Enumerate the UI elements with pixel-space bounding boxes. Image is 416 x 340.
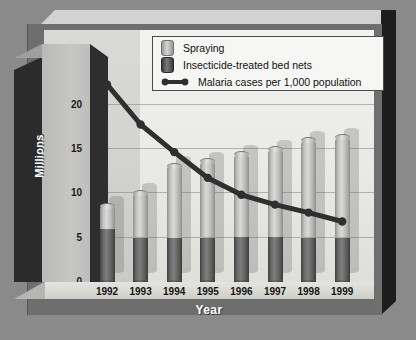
bar-segment-spraying bbox=[200, 161, 215, 238]
bar-segment-bed-nets bbox=[133, 238, 148, 283]
y-tick-label-20: 20 bbox=[52, 99, 82, 110]
y-tick-label-15: 15 bbox=[52, 143, 82, 154]
bar-segment-spraying bbox=[335, 137, 350, 238]
bar-segment-bed-nets bbox=[301, 238, 316, 283]
chart-legend: Spraying Insecticide-treated bed nets Ma… bbox=[152, 36, 384, 91]
cylinder-light-swatch-icon bbox=[161, 40, 174, 56]
bar-segment-bed-nets bbox=[100, 229, 115, 282]
bar-segment-spraying bbox=[234, 154, 249, 237]
bar-segment-spraying bbox=[167, 165, 182, 238]
bar-segment-spraying bbox=[133, 192, 148, 237]
legend-item-spraying: Spraying bbox=[161, 40, 224, 55]
bar-segment-spraying bbox=[301, 140, 316, 238]
cylinder-dark-swatch-icon bbox=[161, 57, 174, 73]
bar-segment-bed-nets bbox=[268, 237, 283, 282]
x-tick-label-1999: 1999 bbox=[322, 286, 362, 297]
bar-segment-bed-nets bbox=[335, 238, 350, 283]
bar-top-cap bbox=[100, 203, 115, 209]
line-marker-swatch-icon bbox=[161, 78, 189, 86]
legend-item-bed-nets: Insecticide-treated bed nets bbox=[161, 57, 312, 72]
bar-segment-bed-nets bbox=[200, 238, 215, 283]
legend-item-malaria-cases: Malaria cases per 1,000 population bbox=[161, 74, 361, 89]
bar-segment-spraying bbox=[268, 149, 283, 237]
bar-segment-bed-nets bbox=[167, 238, 182, 282]
axis-wall-face bbox=[42, 44, 90, 282]
bar-top-cap bbox=[268, 146, 283, 152]
bar-segment-bed-nets bbox=[234, 237, 249, 282]
bar-top-cap bbox=[133, 190, 148, 196]
legend-label-bed-nets: Insecticide-treated bed nets bbox=[183, 59, 312, 71]
legend-label-spraying: Spraying bbox=[183, 42, 224, 54]
legend-label-malaria-cases: Malaria cases per 1,000 population bbox=[198, 76, 361, 88]
y-tick-label-10: 10 bbox=[52, 187, 82, 198]
bar-top-cap bbox=[167, 163, 182, 169]
y-axis-title: Millions bbox=[33, 111, 45, 201]
chart-figure: Millions 20 15 10 5 0 199219931994199519… bbox=[0, 0, 416, 340]
y-tick-label-5: 5 bbox=[52, 232, 82, 243]
x-axis-title: Year bbox=[44, 303, 374, 317]
